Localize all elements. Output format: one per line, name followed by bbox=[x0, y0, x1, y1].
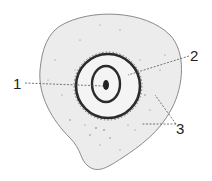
label-1: 1 bbox=[13, 76, 21, 91]
nucleus bbox=[103, 80, 109, 90]
diagram-stage: 1 2 3 bbox=[0, 0, 212, 181]
label-2: 2 bbox=[190, 48, 198, 63]
cell-illustration bbox=[0, 0, 212, 181]
label-3: 3 bbox=[176, 121, 184, 136]
